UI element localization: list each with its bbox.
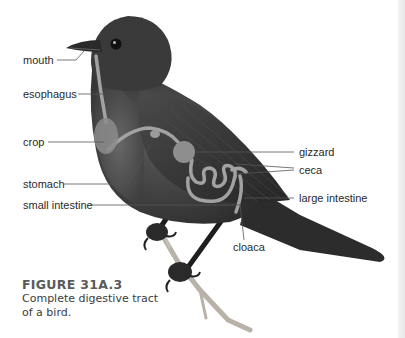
crop-organ <box>94 118 118 154</box>
gizzard-organ <box>173 141 195 163</box>
eye <box>111 39 122 50</box>
figure-number: FIGURE 31A.3 <box>22 277 172 292</box>
label-small-intestine: small intestine <box>23 199 93 211</box>
label-mouth: mouth <box>23 54 54 66</box>
diagram-canvas: mouth esophagus crop stomach small intes… <box>0 0 405 338</box>
label-large-intestine: large intestine <box>299 192 368 204</box>
label-ceca: ceca <box>299 164 322 176</box>
figure-caption-text: Complete digestive tract of a bird. <box>22 292 172 320</box>
label-cloaca: cloaca <box>233 241 265 253</box>
figure-caption: FIGURE 31A.3 Complete digestive tract of… <box>22 277 172 320</box>
stomach-organ <box>150 130 160 138</box>
head <box>91 16 172 91</box>
label-crop: crop <box>23 136 44 148</box>
label-stomach: stomach <box>23 178 65 190</box>
beak <box>66 40 102 52</box>
label-esophagus: esophagus <box>23 88 77 100</box>
label-gizzard: gizzard <box>299 146 334 158</box>
